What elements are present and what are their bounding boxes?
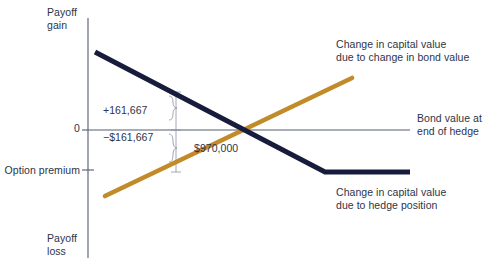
series-label-bond-value: Change in capital value due to change in…: [336, 38, 486, 63]
y-axis-bottom-label: Payoff loss: [47, 232, 93, 257]
y-axis-zero-label: 0: [62, 122, 80, 135]
annotation-strike-value: $970,000: [194, 142, 264, 155]
y-axis-option-premium-label: Option premium: [0, 164, 80, 177]
annotation-upper-delta: +161,667: [103, 104, 165, 117]
series-label-hedge-position: Change in capital value due to hedge pos…: [336, 186, 486, 211]
y-axis-top-label: Payoff gain: [47, 6, 93, 31]
x-axis-label: Bond value at end of hedge: [417, 112, 487, 137]
payoff-diagram-figure: Payoff gain Payoff loss Option premium 0…: [0, 0, 487, 270]
annotation-lower-delta: −$161,667: [103, 131, 165, 144]
